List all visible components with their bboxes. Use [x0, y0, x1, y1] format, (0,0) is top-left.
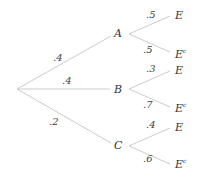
prob-A-E: .5 — [146, 10, 156, 20]
prob-C-Ec: .6 — [143, 154, 153, 164]
node-C: C — [114, 140, 122, 151]
tree-lines — [0, 0, 198, 173]
outcome-C-E: E — [175, 122, 183, 133]
branch-prob-C: .2 — [49, 117, 59, 127]
outcome-B-Ec: Ec — [175, 102, 186, 114]
branch-prob-B: .4 — [62, 76, 72, 86]
branch-prob-A: .4 — [53, 53, 63, 63]
prob-C-E: .4 — [146, 120, 156, 130]
outcome-A-E: E — [175, 10, 183, 21]
outcome-A-Ec: Ec — [175, 48, 186, 60]
node-A: A — [114, 28, 122, 39]
outcome-C-Ec: Ec — [175, 158, 186, 170]
prob-B-E: .3 — [146, 64, 156, 74]
prob-B-Ec: .7 — [143, 100, 153, 110]
outcome-B-E: E — [175, 65, 183, 76]
prob-A-Ec: .5 — [143, 45, 153, 55]
node-B: B — [114, 84, 122, 95]
